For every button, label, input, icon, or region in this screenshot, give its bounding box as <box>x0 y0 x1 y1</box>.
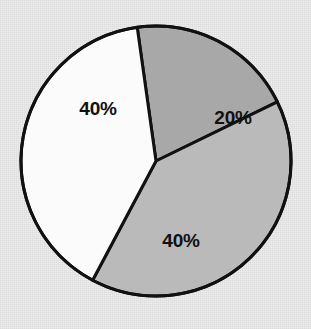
pie-slice-label-40-left: 40% <box>79 98 117 119</box>
pie-chart-figure: 20% 40% 40% <box>0 0 311 329</box>
pie-slice-label-40-bottom: 40% <box>162 230 200 251</box>
pie-slice-label-20: 20% <box>214 107 252 128</box>
pie-chart-svg: 20% 40% 40% <box>0 0 311 329</box>
